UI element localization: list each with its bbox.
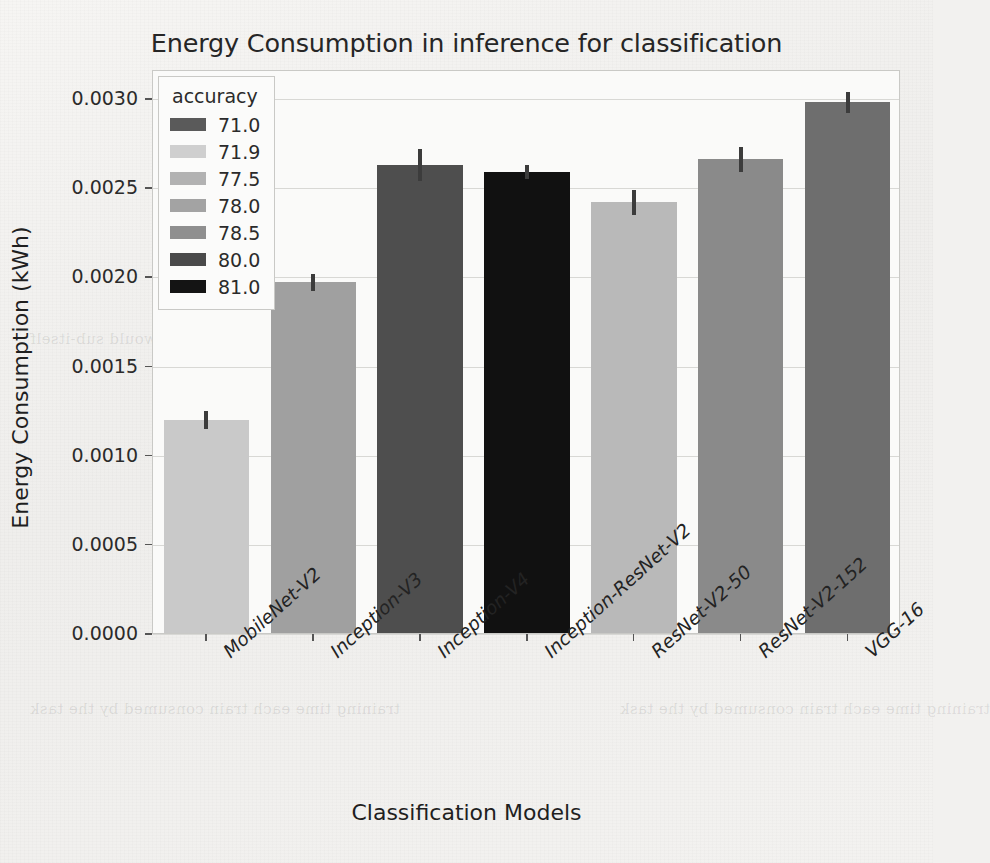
legend-label: 71.0 [218, 114, 260, 136]
legend-swatch [170, 118, 206, 131]
bar[interactable] [377, 165, 462, 633]
legend-entry[interactable]: 80.0 [170, 246, 260, 273]
error-bar [204, 411, 208, 429]
legend-swatch [170, 226, 206, 239]
x-tick-mark [740, 634, 742, 641]
legend-entry[interactable]: 77.5 [170, 165, 260, 192]
y-tick-label: 0.0005 [72, 533, 138, 555]
error-bar [632, 190, 636, 215]
legend-swatch [170, 145, 206, 158]
x-tick-mark [205, 634, 207, 641]
legend-entry[interactable]: 81.0 [170, 273, 260, 300]
legend-entry[interactable]: 71.9 [170, 138, 260, 165]
error-bar [846, 92, 850, 113]
error-bar [739, 147, 743, 172]
legend-swatch [170, 172, 206, 185]
x-tick-label: Inception-V4 [433, 646, 447, 662]
legend-entry[interactable]: 78.5 [170, 219, 260, 246]
bar-rect [484, 172, 569, 633]
x-tick-mark [312, 634, 314, 641]
legend-swatch [170, 199, 206, 212]
y-axis-tick-labels: 0.00000.00050.00100.00150.00200.00250.00… [26, 0, 138, 863]
y-tick-label: 0.0010 [72, 444, 138, 466]
x-tick-label: Inception-V3 [326, 646, 340, 662]
y-tick-label: 0.0030 [72, 87, 138, 109]
y-tick-mark [145, 187, 152, 189]
y-tick-mark [145, 633, 152, 635]
legend-label: 71.9 [218, 141, 260, 163]
error-bar [311, 274, 315, 292]
x-tick-label: VGG-16 [861, 646, 875, 662]
legend-entries: 71.071.977.578.078.580.081.0 [170, 111, 260, 300]
legend-swatch [170, 280, 206, 293]
x-tick-mark [526, 634, 528, 641]
y-tick-label: 0.0020 [72, 265, 138, 287]
error-bar [525, 165, 529, 179]
bar-rect [805, 102, 890, 633]
bar-rect [377, 165, 462, 633]
legend-title: accuracy [172, 85, 260, 107]
legend-entry[interactable]: 78.0 [170, 192, 260, 219]
legend-label: 77.5 [218, 168, 260, 190]
y-tick-mark [145, 98, 152, 100]
legend-swatch [170, 253, 206, 266]
y-tick-label: 0.0025 [72, 176, 138, 198]
y-tick-mark [145, 366, 152, 368]
x-tick-mark [419, 634, 421, 641]
x-tick-label: ResNet-V2-152 [754, 646, 768, 662]
legend-label: 78.0 [218, 195, 260, 217]
legend: accuracy 71.071.977.578.078.580.081.0 [158, 76, 275, 310]
y-tick-label: 0.0000 [72, 622, 138, 644]
error-bar [418, 149, 422, 181]
bar[interactable] [484, 172, 569, 633]
bar-rect [164, 420, 249, 633]
x-axis-label: Classification Models [0, 800, 933, 825]
x-tick-mark [633, 634, 635, 641]
y-tick-mark [145, 276, 152, 278]
bar[interactable] [805, 102, 890, 633]
y-tick-label: 0.0015 [72, 355, 138, 377]
x-tick-label: MobileNet-V2 [219, 646, 233, 662]
chart-title: Energy Consumption in inference for clas… [0, 28, 933, 58]
y-tick-mark [145, 544, 152, 546]
legend-entry[interactable]: 71.0 [170, 111, 260, 138]
y-axis-label: Energy Consumption (kWh) [8, 138, 33, 618]
x-tick-label: Inception-ResNet-V2 [540, 646, 554, 662]
legend-label: 80.0 [218, 249, 260, 271]
x-tick-mark [847, 634, 849, 641]
legend-label: 81.0 [218, 276, 260, 298]
legend-label: 78.5 [218, 222, 260, 244]
x-tick-label: ResNet-V2-50 [647, 646, 661, 662]
y-tick-mark [145, 455, 152, 457]
bar[interactable] [164, 420, 249, 633]
